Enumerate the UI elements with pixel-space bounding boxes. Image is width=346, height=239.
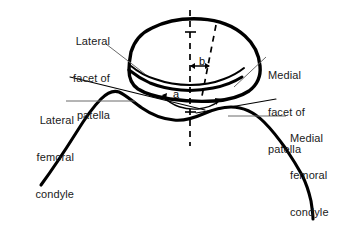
label-lateral-femoral-condyle: Lateral femoral condyle <box>2 89 74 225</box>
anatomical-diagram-figure: Lateral facet of patella Lateral femoral… <box>0 0 346 239</box>
label-medial-femoral-condyle: Medial femoral condyle <box>290 107 346 239</box>
label-medial-condyle-line2: femoral <box>290 169 346 181</box>
label-medial-condyle-line1: Medial <box>290 132 346 144</box>
label-lateral-condyle-line3: condyle <box>2 188 74 200</box>
label-medial-facet-line1: Medial <box>268 69 344 81</box>
patella-articular-ridge <box>129 70 242 90</box>
measurement-label-b: b <box>199 55 205 67</box>
label-lateral-condyle-line2: femoral <box>2 151 74 163</box>
label-lateral-condyle-line1: Lateral <box>2 114 74 126</box>
measurement-label-a: a <box>173 88 179 100</box>
label-lateral-facet-line1: Lateral <box>38 35 110 47</box>
label-medial-condyle-line3: condyle <box>290 206 346 218</box>
label-lateral-facet-line2: facet of <box>38 72 110 84</box>
leader-line-lateral-facet <box>106 44 145 74</box>
